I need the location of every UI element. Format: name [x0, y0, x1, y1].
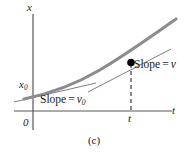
x0-label: x0 — [19, 79, 28, 92]
slope-v-prefix: Slope — [134, 58, 160, 70]
slope-v-symbol: v — [171, 58, 176, 70]
slope-v0-equals: = — [66, 93, 77, 105]
panel-caption: (c) — [0, 135, 188, 146]
origin-label: 0 — [23, 117, 29, 128]
slope-v-annotation: Slope=v — [134, 59, 176, 71]
slope-v-equals: = — [160, 58, 171, 70]
t-tick-label: t — [128, 113, 131, 124]
axis-label-t: t — [172, 105, 175, 116]
slope-v0-prefix: Slope — [40, 93, 66, 105]
slope-v0-annotation: Slope=v0 — [40, 94, 86, 106]
slope-v0-subscript: 0 — [82, 98, 86, 107]
axis-label-x: x — [27, 2, 32, 13]
position-time-graph-figure: x t 0 x0 t Slope=v0 Slope=v (c) — [0, 0, 188, 157]
x0-label-subscript: 0 — [24, 84, 28, 92]
